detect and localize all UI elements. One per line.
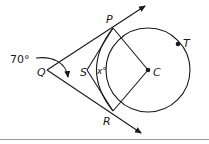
point-s-label: S (80, 66, 87, 79)
point-p-label: P (106, 13, 113, 26)
point-c-dot (146, 68, 151, 73)
tangent-ray-qp (47, 6, 145, 70)
point-q-label: Q (37, 66, 46, 79)
angle-q-label: 70° (10, 53, 30, 66)
point-t-label: T (183, 37, 191, 50)
segment-cr (113, 70, 148, 111)
segment-cp (113, 28, 148, 70)
segment-sp (87, 28, 113, 70)
geometry-diagram: 70° Q P R S x° C T (0, 0, 209, 144)
point-c-label: C (153, 66, 161, 79)
segment-sr (87, 70, 113, 111)
point-r-label: R (103, 115, 111, 128)
angle-s-label: x° (96, 66, 107, 76)
tangent-ray-qr (47, 70, 141, 133)
point-t-dot (176, 42, 181, 47)
